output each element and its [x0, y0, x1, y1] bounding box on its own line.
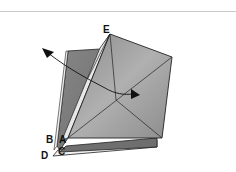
label-d: D [41, 150, 48, 161]
label-e: E [103, 24, 110, 35]
origami-fold-diagram: E B A C D [0, 0, 236, 172]
label-b: B [46, 134, 53, 145]
bottom-layers [53, 138, 157, 156]
label-a: A [59, 134, 66, 145]
label-c: C [58, 146, 65, 157]
